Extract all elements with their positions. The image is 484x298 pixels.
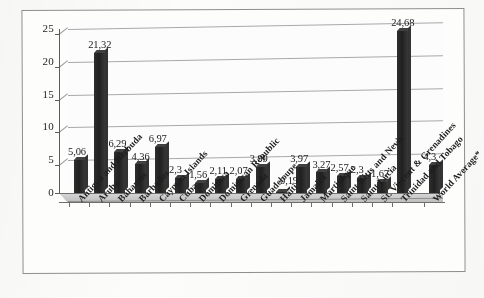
y-axis-tick-label: 5: [14, 153, 54, 165]
gridline-riser: [59, 93, 68, 101]
y-axis-tick-mark: [55, 34, 60, 35]
y-axis-tick-label: 0: [14, 186, 54, 198]
bar-value-label: 21,32: [88, 39, 111, 50]
y-axis-tick-mark: [55, 132, 60, 133]
gridline-riser: [59, 126, 68, 134]
bar-value-label: 6,97: [149, 133, 167, 144]
y-axis-tick-mark: [55, 67, 60, 68]
x-axis-category-labels: Antigua and BarbudaArubaBahamasBarbadosC…: [68, 195, 468, 275]
y-axis-tick-label: 15: [14, 88, 54, 100]
y-axis-tick-label: 25: [14, 22, 54, 34]
bar-value-label: 5,06: [68, 146, 86, 157]
bar-chart: 0510152025 5,0621,326,294,366,972,31,562…: [22, 9, 463, 271]
y-axis-tick-label: 20: [14, 55, 54, 67]
bar-value-label: 3,27: [312, 159, 330, 170]
gridline-riser: [59, 159, 68, 167]
y-axis-line: [59, 29, 60, 194]
gridline-riser: [59, 27, 68, 35]
gridline-riser: [59, 60, 68, 68]
bar-value-label: 24,68: [391, 17, 414, 28]
y-axis-tick-label: 10: [14, 120, 54, 132]
y-axis-tick-mark: [55, 100, 60, 101]
bar-value-label: 4,36: [132, 151, 150, 162]
y-axis-tick-mark: [55, 165, 60, 166]
